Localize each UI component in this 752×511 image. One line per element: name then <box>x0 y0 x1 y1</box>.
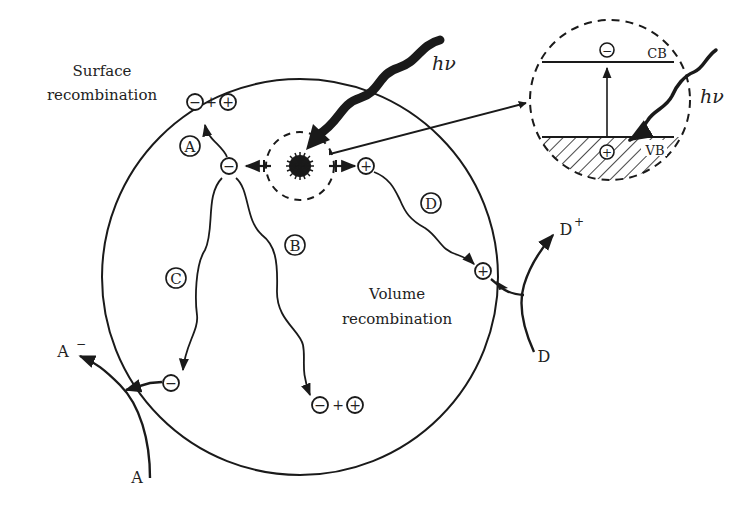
surface-recombination-label: Surface <box>73 62 132 80</box>
volume-pair: − + + <box>312 397 363 413</box>
path-c-electron-transfer <box>183 178 222 370</box>
excitation-starburst-icon <box>286 152 314 180</box>
donor-reaction-curve <box>522 235 553 352</box>
electron-to-acceptor-arrow <box>126 382 162 390</box>
donor-oxidized-sup: + <box>574 215 584 229</box>
svg-text:+: + <box>360 158 372 174</box>
path-d-label: D <box>421 193 441 213</box>
svg-text:B: B <box>289 237 300 255</box>
hv-label-main: hν <box>432 52 456 74</box>
svg-text:+: + <box>477 263 489 279</box>
particle-circle <box>102 79 498 475</box>
hole-surface: + <box>475 263 491 279</box>
svg-text:+: + <box>205 94 217 110</box>
svg-text:−: − <box>314 397 326 413</box>
hole-center: + <box>358 158 374 174</box>
volume-recombination-label-2: recombination <box>342 310 453 328</box>
path-b-label: B <box>285 235 305 255</box>
svg-text:+: + <box>349 397 361 413</box>
vb-label: VB <box>645 143 665 158</box>
surface-pair: − + + <box>187 94 236 110</box>
vb-hole: + <box>600 145 614 160</box>
path-a-label: A <box>180 136 200 156</box>
svg-text:D: D <box>425 195 437 213</box>
electron-center: − <box>221 158 237 174</box>
band-diagram-inset: − + CB VB hν <box>520 20 724 187</box>
svg-text:A: A <box>184 138 196 156</box>
path-a-surface-recombination <box>205 125 227 157</box>
donor-label: D <box>538 347 551 366</box>
acceptor-reaction-curve <box>80 356 150 478</box>
path-c-label: C <box>166 268 186 288</box>
cb-label: CB <box>647 46 667 61</box>
svg-text:−: − <box>602 44 612 58</box>
hv-label-inset: hν <box>700 85 724 107</box>
electron-surface: − <box>163 375 179 391</box>
svg-text:−: − <box>189 94 201 110</box>
acceptor-reduced-label: A <box>56 342 69 361</box>
path-d-hole-transfer <box>374 172 474 264</box>
valence-band-hatch <box>520 137 700 187</box>
cb-electron: − <box>600 43 614 58</box>
donor-oxidized-label: D <box>560 220 573 239</box>
svg-text:+: + <box>222 94 234 110</box>
path-b-volume-recombination <box>236 178 310 395</box>
acceptor-label: A <box>130 468 143 487</box>
svg-text:−: − <box>223 158 235 174</box>
svg-text:−: − <box>165 375 177 391</box>
hole-to-donor-link <box>491 279 524 295</box>
svg-text:+: + <box>602 146 612 160</box>
svg-text:C: C <box>170 270 181 288</box>
acceptor-reduced-sup: − <box>76 337 86 351</box>
zoom-pointer-line <box>330 103 526 154</box>
svg-text:+: + <box>332 397 344 413</box>
volume-recombination-label: Volume <box>368 285 425 303</box>
photocatalysis-diagram: hν − + A − + + Surface recombination B −… <box>0 0 752 511</box>
surface-recombination-label-2: recombination <box>47 86 158 104</box>
